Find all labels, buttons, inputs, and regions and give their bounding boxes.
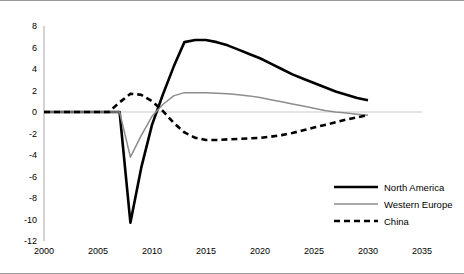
y-tick-label: 4 [32,64,37,74]
legend-label: Western Europe [384,199,452,210]
series-line-western-europe [44,93,368,157]
y-tick-label: 2 [32,86,37,96]
x-tick-label: 2005 [88,246,108,256]
x-tick-label: 2010 [142,246,162,256]
line-chart: 86420-2-4-6-8-10-12 20002005201020152020… [0,1,464,274]
x-tick-label: 2025 [304,246,324,256]
y-axis: 86420-2-4-6-8-10-12 [24,21,422,246]
chart-container: 86420-2-4-6-8-10-12 20002005201020152020… [0,0,464,274]
x-tick-label: 2000 [34,246,54,256]
series-line-north-america [44,40,368,223]
y-tick-label: -6 [29,172,37,182]
x-tick-label: 2035 [412,246,432,256]
x-tick-label: 2020 [250,246,270,256]
y-tick-label: -2 [29,129,37,139]
chart-legend: North AmericaWestern EuropeChina [334,182,452,227]
series-line-china [44,94,368,140]
y-tick-label: -4 [29,150,37,160]
y-tick-label: 0 [32,107,37,117]
y-tick-label: 6 [32,43,37,53]
legend-label: North America [384,182,445,193]
y-tick-label: -8 [29,193,37,203]
y-tick-label: 8 [32,21,37,31]
series-layer [44,40,368,223]
x-tick-label: 2015 [196,246,216,256]
y-tick-label: -10 [24,215,37,225]
legend-label: China [384,216,410,227]
x-tick-label: 2030 [358,246,378,256]
x-axis: 20002005201020152020202520302035 [34,246,432,256]
